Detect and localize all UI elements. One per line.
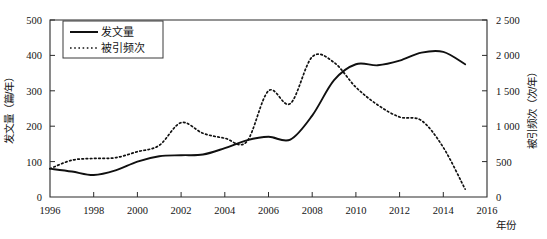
right-tick-label: 2 000: [496, 50, 520, 61]
dual-axis-line-chart: 0100200300400500 05001 0001 5002 0002 50…: [0, 0, 547, 239]
x-tick-label: 2004: [214, 205, 236, 216]
x-tick-label: 2014: [433, 205, 455, 216]
series-publications: [50, 51, 465, 175]
x-tick-label: 1998: [83, 205, 104, 216]
x-tick-label: 2012: [389, 205, 410, 216]
x-axis: 1996199820002002200420062008201020122014…: [40, 192, 498, 216]
left-tick-label: 400: [26, 50, 42, 61]
left-tick-label: 300: [26, 86, 42, 97]
legend-label-citations: 被引频次: [101, 41, 145, 54]
legend-label-publications: 发文量: [101, 25, 134, 38]
right-tick-label: 0: [496, 192, 501, 203]
x-tick-label: 1996: [40, 205, 61, 216]
x-tick-label: 2002: [171, 205, 192, 216]
right-axis-title: 被引频次（次/年）: [526, 67, 538, 150]
right-tick-label: 2 500: [496, 15, 520, 26]
left-axis: 0100200300400500: [26, 15, 55, 203]
right-tick-label: 1 500: [496, 86, 520, 97]
x-tick-label: 2016: [477, 205, 498, 216]
x-tick-label: 2010: [345, 205, 366, 216]
left-tick-label: 0: [37, 192, 42, 203]
series-citations: [50, 54, 465, 189]
x-tick-label: 2008: [302, 205, 323, 216]
chart-legend: 发文量 被引频次: [63, 21, 163, 58]
left-tick-label: 500: [26, 15, 42, 26]
series-group: [50, 51, 465, 189]
left-axis-title: 发文量（篇/年）: [3, 72, 15, 145]
x-tick-label: 2006: [258, 205, 279, 216]
right-tick-label: 1 000: [496, 121, 520, 132]
chart-figure: 0100200300400500 05001 0001 5002 0002 50…: [0, 0, 547, 239]
right-axis: 05001 0001 5002 0002 500: [482, 15, 520, 203]
left-tick-label: 200: [26, 121, 42, 132]
left-tick-label: 100: [26, 157, 42, 168]
x-axis-title: 年份: [496, 219, 517, 231]
x-tick-label: 2000: [127, 205, 148, 216]
right-tick-label: 500: [496, 157, 512, 168]
